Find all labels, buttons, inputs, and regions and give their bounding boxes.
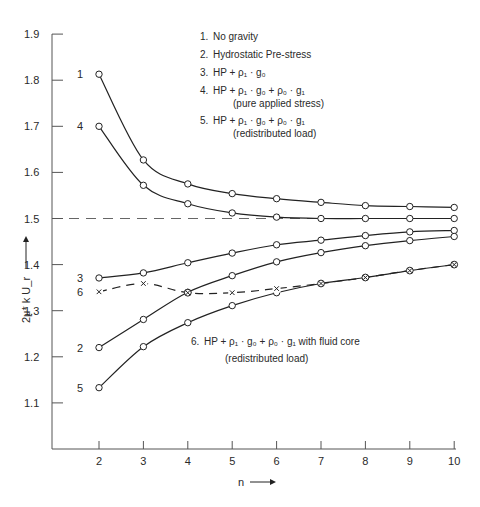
legend-number: 1. [200,31,208,42]
legend-number: 5. [200,115,208,126]
curve-labels: 143256 [77,68,83,393]
y-ticks: 1.11.21.31.41.51.61.71.81.9 [24,28,63,409]
point-curve-2 [407,237,413,243]
legend-number: 4. [200,85,208,96]
x-ticks: 2345678910 [96,441,460,467]
point-curve-3 [185,260,191,266]
legend-text: Hydrostatic Pre-stress [213,49,311,60]
point-curve-1 [96,71,102,77]
point-curve-3 [362,232,368,238]
legend-number: 3. [200,67,208,78]
y-axis-arrowhead-icon [23,236,29,242]
point-curve-2 [318,249,324,255]
point-curve-2 [273,259,279,265]
x-tick-label: 2 [96,455,102,467]
legend-text: HP + ρ₁ · g₀ + ρ₀ · g₁ [213,115,305,126]
legend-note: (redistributed load) [233,128,316,139]
x-tick-label: 9 [407,455,413,467]
point-curve-5 [96,384,102,390]
y-tick-label: 1.8 [24,74,39,86]
x-tick-label: 5 [229,455,235,467]
point-curve-3 [451,227,457,233]
y-tick-label: 1.9 [24,28,39,40]
curve-label-3: 3 [77,272,83,284]
point-curve-1 [407,203,413,209]
point-curve-3 [140,270,146,276]
point-curve-4 [273,214,279,220]
point-curve-2 [96,344,102,350]
point-curve-3 [96,275,102,281]
point-curve-2 [140,316,146,322]
point-curve-4 [362,215,368,221]
legend-item-2: 2. Hydrostatic Pre-stress [200,49,311,60]
axes [52,34,456,449]
annotation-number: 6. [191,336,199,347]
x-tick-label: 7 [318,455,324,467]
point-curve-3 [318,237,324,243]
annotation-note: (redistributed load) [225,353,308,364]
legend-number: 2. [200,49,208,60]
curve-4 [99,126,454,218]
curve-label-6: 6 [77,286,83,298]
point-curve-1 [140,157,146,163]
legend-text: HP + ρ₁ · g₀ [213,67,266,78]
curve-label-4: 4 [77,120,83,132]
legend: 1. No gravity 2. Hydrostatic Pre-stress … [200,31,324,139]
point-curve-4 [407,215,413,221]
x-axis-label: n [238,476,276,488]
point-curve-5 [229,302,235,308]
y-axis-label-text: 2μ* k U_r [20,277,32,323]
curve-label-5: 5 [77,382,83,394]
legend-item-5: 5. HP + ρ₁ · g₀ + ρ₀ · g₁ (redistributed… [200,115,316,139]
curve-label-1: 1 [77,68,83,80]
legend-text: No gravity [213,31,258,42]
legend-note: (pure applied stress) [233,98,324,109]
point-curve-4 [451,215,457,221]
point-curve-4 [140,182,146,188]
point-curve-3 [229,250,235,256]
point-curve-1 [451,204,457,210]
legend-item-4: 4. HP + ρ₁ · g₀ + ρ₀ · g₁ (pure applied … [200,85,324,109]
y-tick-label: 1.1 [24,397,39,409]
legend-item-1: 1. No gravity [200,31,258,42]
x-tick-label: 10 [448,455,460,467]
legend-text: HP + ρ₁ · g₀ + ρ₀ · g₁ [213,85,305,96]
point-curve-2 [362,242,368,248]
point-curve-3 [273,242,279,248]
x-axis-label-text: n [238,476,244,488]
point-curve-1 [318,199,324,205]
annotation-curve-6: 6. HP + ρ₁ · g₀ + ρ₀ · g₁ with fluid cor… [191,336,360,364]
point-curve-4 [185,201,191,207]
point-curve-2 [451,233,457,239]
point-curve-1 [273,195,279,201]
y-tick-label: 1.5 [24,213,39,225]
point-curve-3 [407,229,413,235]
point-curve-2 [229,272,235,278]
point-curve-5 [140,343,146,349]
x-tick-label: 3 [140,455,146,467]
point-curve-5 [185,319,191,325]
point-curve-4 [318,215,324,221]
curve-label-2: 2 [77,342,83,354]
annotation-text: HP + ρ₁ · g₀ + ρ₀ · g₁ with fluid core [204,336,360,347]
point-curve-4 [229,210,235,216]
curve-5 [99,265,454,388]
x-tick-label: 4 [185,455,191,467]
point-curve-1 [229,190,235,196]
x-tick-label: 6 [274,455,280,467]
point-curve-4 [96,123,102,129]
y-axis-label: 2μ* k U_r [20,236,32,323]
point-curve-1 [185,181,191,187]
y-tick-label: 1.6 [24,166,39,178]
x-axis-arrowhead-icon [270,479,276,485]
y-tick-label: 1.2 [24,351,39,363]
chart: 1.11.21.31.41.51.61.71.81.9 2345678910 1… [0,0,480,507]
legend-item-3: 3. HP + ρ₁ · g₀ [200,67,266,78]
x-tick-label: 8 [362,455,368,467]
curve-3 [99,230,454,277]
y-tick-label: 1.7 [24,120,39,132]
point-curve-1 [362,202,368,208]
